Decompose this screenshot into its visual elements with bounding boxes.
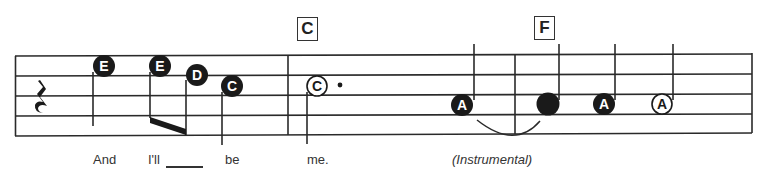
augmentation-dot — [338, 83, 343, 88]
note-a-1: A — [451, 94, 473, 116]
note-d: D — [186, 64, 208, 86]
note-letter: E — [155, 58, 164, 74]
chord-symbol-c: C — [297, 17, 318, 41]
note-a-half: A — [652, 94, 672, 114]
note-e-2: E — [149, 55, 171, 77]
note-letter: A — [657, 96, 667, 112]
lyric-me: me. — [307, 152, 329, 167]
note-e-1: E — [93, 55, 115, 77]
note-a-tied — [537, 93, 560, 116]
note-a-2: A — [593, 93, 615, 115]
lyric-extender-line — [166, 166, 203, 168]
note-c-1: C — [221, 75, 243, 97]
lyric-instrumental: (Instrumental) — [452, 152, 532, 167]
lyric-be: be — [225, 152, 239, 167]
note-letter: A — [457, 97, 467, 113]
note-letter: D — [192, 67, 202, 83]
note-letter: A — [599, 96, 609, 112]
lyric-and: And — [93, 152, 116, 167]
eighth-beam — [150, 117, 186, 135]
chord-symbol-f: F — [534, 16, 555, 40]
tie — [477, 120, 540, 135]
lyric-ill: I'll — [148, 152, 160, 167]
noteheads: E E D C C A A A — [93, 55, 672, 116]
staff-lines — [15, 54, 752, 136]
note-letter: E — [99, 58, 108, 74]
note-letter: C — [227, 78, 237, 94]
note-c-half: C — [307, 76, 327, 96]
note-letter: C — [312, 78, 322, 94]
